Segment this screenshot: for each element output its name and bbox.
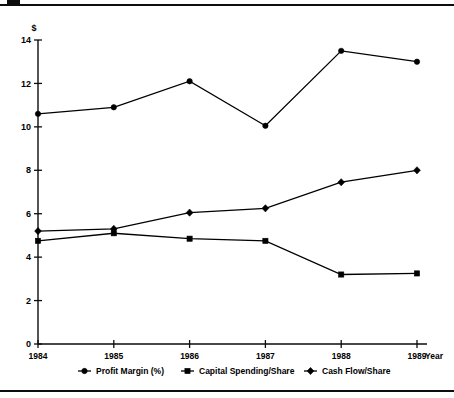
y-tick-label: 8 — [26, 165, 31, 175]
x-tick-label: 1989 — [408, 351, 427, 361]
series-line — [38, 170, 417, 231]
y-axis-ticks: 02468101214 — [21, 35, 42, 349]
y-tick-label: 14 — [21, 35, 31, 45]
x-tick-label: 1985 — [104, 351, 123, 361]
series-line — [38, 233, 417, 274]
data-point-marker — [338, 179, 345, 186]
y-tick-label: 6 — [26, 209, 31, 219]
x-axis-name-label: Year — [425, 351, 444, 361]
axis-lines — [38, 40, 427, 344]
y-tick-label: 12 — [21, 79, 31, 89]
data-point-marker — [414, 167, 421, 174]
data-point-marker — [187, 236, 192, 241]
y-tick-label: 2 — [26, 296, 31, 306]
data-point-marker — [111, 105, 116, 110]
legend-label: Cash Flow/Share — [322, 366, 391, 376]
data-point-marker — [187, 79, 192, 84]
legend-swatch-marker — [185, 368, 190, 373]
y-axis-unit-label: $ — [31, 23, 36, 33]
data-point-marker — [35, 238, 40, 243]
line-chart: 02468101214 198419851986198719881989 Pro… — [0, 0, 454, 398]
x-axis-ticks: 198419851986198719881989 — [29, 340, 427, 361]
y-tick-label: 0 — [26, 339, 31, 349]
data-point-marker — [262, 205, 269, 212]
x-tick-label: 1987 — [256, 351, 275, 361]
data-point-marker — [186, 209, 193, 216]
data-point-marker — [414, 271, 419, 276]
chart-series — [35, 48, 421, 277]
data-point-marker — [339, 48, 344, 53]
y-tick-label: 4 — [26, 252, 31, 262]
data-point-marker — [35, 227, 42, 234]
chart-legend: Profit Margin (%)Capital Spending/ShareC… — [78, 366, 391, 376]
data-point-marker — [263, 123, 268, 128]
legend-swatch-marker — [82, 368, 87, 373]
y-tick-label: 10 — [21, 122, 31, 132]
data-point-marker — [339, 272, 344, 277]
x-tick-label: 1986 — [180, 351, 199, 361]
data-point-marker — [35, 111, 40, 116]
x-tick-label: 1984 — [29, 351, 48, 361]
data-point-marker — [263, 238, 268, 243]
series-line — [38, 51, 417, 126]
data-point-marker — [414, 59, 419, 64]
x-tick-label: 1988 — [332, 351, 351, 361]
legend-label: Profit Margin (%) — [96, 366, 164, 376]
figure-root: 02468101214 198419851986198719881989 Pro… — [0, 0, 454, 398]
legend-swatch-marker — [307, 367, 314, 374]
legend-label: Capital Spending/Share — [199, 366, 295, 376]
chart-axes — [38, 40, 427, 344]
